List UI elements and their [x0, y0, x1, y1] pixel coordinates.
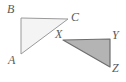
vertex-label-x: X — [55, 28, 62, 40]
vertex-label-z: Z — [112, 62, 119, 74]
geometry-figure — [0, 0, 126, 82]
triangle-xyz-shape — [63, 39, 110, 67]
vertex-label-b: B — [7, 3, 14, 15]
vertex-label-a: A — [8, 54, 15, 66]
vertex-label-y: Y — [112, 29, 119, 41]
vertex-label-c: C — [71, 11, 79, 23]
